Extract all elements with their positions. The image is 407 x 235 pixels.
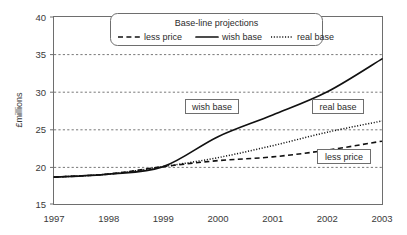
annotation-less-price-label: less price <box>325 152 363 162</box>
y-tick-label-35: 35 <box>35 49 46 60</box>
annotation-wish-base-label: wish base <box>191 102 232 112</box>
annotation-real-base: real base <box>313 100 364 114</box>
y-tick-label-15: 15 <box>35 199 46 210</box>
y-tick-label-30: 30 <box>35 87 46 98</box>
x-tick-label-1999: 1999 <box>153 213 174 224</box>
legend: Base-line projections less price wish ba… <box>111 14 335 46</box>
x-tick-label-2002: 2002 <box>317 213 338 224</box>
legend-label-real-base: real base <box>297 32 334 42</box>
x-tick-label-2000: 2000 <box>207 213 228 224</box>
annotation-real-base-label: real base <box>319 102 356 112</box>
chart-page: 40 35 30 25 20 15 £millions 1997 1998 19… <box>0 0 407 235</box>
legend-label-wish-base: wish base <box>221 32 262 42</box>
annotation-less-price: less price <box>318 150 371 164</box>
y-axis-title: £millions <box>14 92 24 128</box>
legend-label-less-price: less price <box>144 32 182 42</box>
y-tick-label-40: 40 <box>35 12 46 23</box>
y-tick-label-20: 20 <box>35 162 46 173</box>
annotation-wish-base: wish base <box>186 100 239 114</box>
x-tick-label-2003: 2003 <box>371 213 392 224</box>
y-tick-label-25: 25 <box>35 124 46 135</box>
line-chart: 40 35 30 25 20 15 £millions 1997 1998 19… <box>0 0 407 235</box>
x-tick-label-1998: 1998 <box>98 213 119 224</box>
legend-title: Base-line projections <box>175 18 259 28</box>
x-tick-label-2001: 2001 <box>262 213 283 224</box>
x-tick-label-1997: 1997 <box>43 213 64 224</box>
